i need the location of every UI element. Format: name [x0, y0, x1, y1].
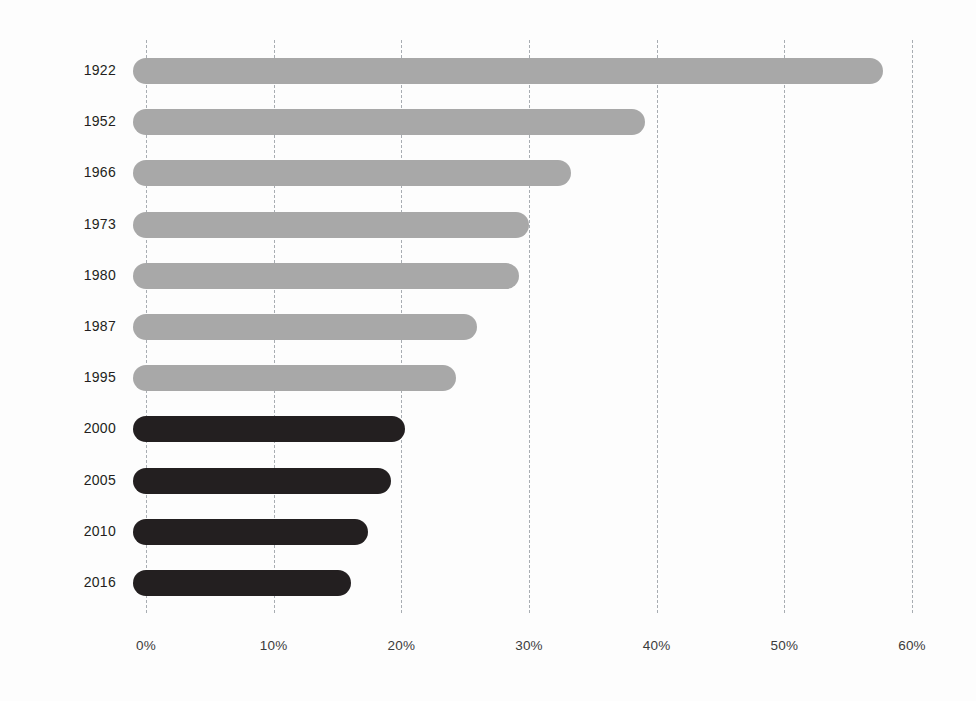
x-tick-label: 10%: [260, 638, 288, 653]
x-tick-label: 40%: [643, 638, 671, 653]
x-tick-label: 50%: [771, 638, 799, 653]
x-axis-labels: 0%10%20%30%40%50%60%: [0, 0, 976, 701]
horizontal-bar-chart: 1922195219661973198019871995200020052010…: [0, 0, 976, 701]
x-tick-label: 60%: [898, 638, 926, 653]
plot-area: 1922195219661973198019871995200020052010…: [0, 0, 976, 701]
x-tick-label: 20%: [388, 638, 416, 653]
x-tick-label: 30%: [515, 638, 543, 653]
x-tick-label: 0%: [136, 638, 156, 653]
